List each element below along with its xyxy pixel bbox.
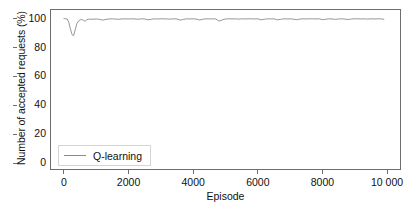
x-tick-label: 8000 [292,176,352,188]
legend-label-q-learning: Q-learning [93,150,142,162]
x-tick-label: 0 [34,176,94,188]
x-tick-label: 10 000 [357,176,417,188]
x-tick-mark [193,170,194,174]
x-axis-label: Episode [50,190,401,202]
y-tick-mark [13,76,17,77]
y-tick-label: 100 [20,13,46,23]
y-tick-label: 60 [20,70,46,80]
chart-figure: Number of accepted requests (%) 02040608… [0,0,418,212]
x-tick-mark [257,170,258,174]
y-tick-mark [13,134,17,135]
x-tick-label: 4000 [163,176,223,188]
legend-line-swatch [64,155,86,156]
y-tick-mark [13,47,17,48]
x-tick-mark [63,170,64,174]
x-tick-mark [387,170,388,174]
y-tick-mark [13,105,17,106]
y-tick-label: 40 [20,99,46,109]
x-tick-mark [128,170,129,174]
y-tick-mark [13,163,17,164]
x-tick-label: 6000 [228,176,288,188]
y-axis-label: Number of accepted requests (%) [14,0,28,178]
y-tick-mark [13,18,17,19]
y-tick-label: 0 [20,157,46,167]
y-tick-label: 20 [20,128,46,138]
x-tick-mark [322,170,323,174]
x-tick-label: 2000 [99,176,159,188]
y-tick-label: 80 [20,42,46,52]
chart-legend: Q-learning [58,145,151,166]
